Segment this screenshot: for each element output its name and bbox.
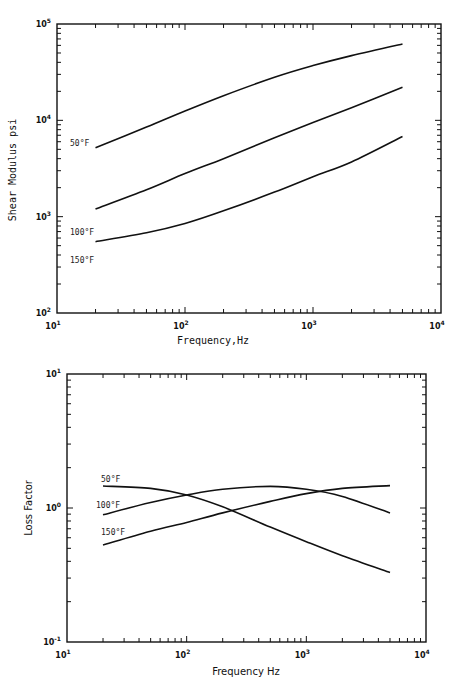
curve-100f bbox=[96, 87, 403, 209]
bottom-tick-labels: 10110210310410-1100101 bbox=[43, 367, 429, 660]
x-tick-label: 103 bbox=[295, 648, 310, 660]
y-tick-label: 101 bbox=[46, 367, 61, 379]
curve-50f bbox=[103, 486, 390, 573]
bottom-x-axis-label: Frequency Hz bbox=[212, 666, 280, 677]
y-tick-label: 10-1 bbox=[43, 635, 61, 647]
bottom-plot-frame bbox=[67, 374, 426, 642]
top-label-50f: 50°F bbox=[70, 139, 89, 148]
bottom-label-150f: 150°F bbox=[101, 528, 125, 537]
top-tick-labels: 101102103104102103104105 bbox=[36, 17, 445, 331]
shear-modulus-chart: 101102103104102103104105 50°F 100°F 150°… bbox=[7, 17, 445, 346]
x-tick-label: 102 bbox=[175, 648, 190, 660]
bottom-curves bbox=[103, 486, 390, 573]
loss-factor-chart: 10110210310410-1100101 50°F 100°F 150°F … bbox=[23, 367, 430, 677]
bottom-y-axis-label: Loss Factor bbox=[23, 479, 34, 536]
x-tick-label: 102 bbox=[173, 319, 188, 331]
bottom-label-50f: 50°F bbox=[101, 475, 120, 484]
top-y-axis-label: Shear Modulus psi bbox=[7, 119, 18, 221]
curve-150f bbox=[96, 137, 403, 242]
x-tick-label: 101 bbox=[45, 319, 60, 331]
x-tick-label: 101 bbox=[55, 648, 70, 660]
bottom-axis-ticks bbox=[67, 374, 426, 642]
top-x-axis-label: Frequency,Hz bbox=[177, 335, 249, 346]
y-tick-label: 103 bbox=[36, 210, 51, 222]
top-plot-frame bbox=[57, 24, 441, 313]
top-label-150f: 150°F bbox=[70, 256, 94, 265]
x-tick-label: 103 bbox=[301, 319, 316, 331]
y-tick-label: 102 bbox=[36, 306, 51, 318]
y-tick-label: 100 bbox=[46, 501, 61, 513]
curve-50f bbox=[96, 44, 403, 148]
y-tick-label: 105 bbox=[36, 17, 51, 29]
top-axis-ticks bbox=[57, 24, 441, 313]
x-tick-label: 104 bbox=[429, 319, 444, 331]
top-curves bbox=[96, 44, 403, 242]
top-label-100f: 100°F bbox=[70, 228, 94, 237]
figure: 101102103104102103104105 50°F 100°F 150°… bbox=[0, 0, 449, 681]
x-tick-label: 104 bbox=[414, 648, 429, 660]
curve-150f bbox=[103, 486, 390, 545]
curve-100f bbox=[103, 486, 390, 514]
y-tick-label: 104 bbox=[36, 113, 51, 125]
bottom-label-100f: 100°F bbox=[96, 501, 120, 510]
